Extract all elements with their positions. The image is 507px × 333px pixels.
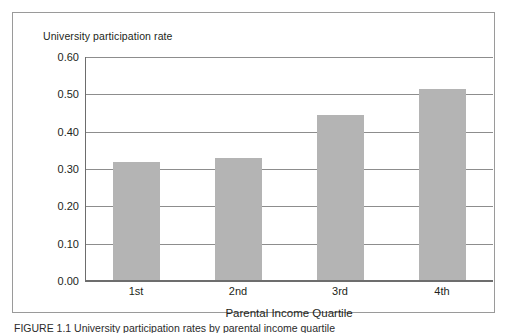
- figure-frame: University participation rate 0.600.500.…: [12, 12, 495, 313]
- figure-caption: FIGURE 1.1 University participation rate…: [14, 322, 500, 333]
- x-axis-line: [85, 280, 493, 281]
- y-axis-tick-labels: 0.600.500.400.300.200.100.00: [29, 57, 79, 281]
- bar: [113, 162, 160, 281]
- bar: [419, 89, 466, 281]
- y-axis-tick-label: 0.10: [35, 238, 79, 250]
- x-axis-tick-labels: 1st2nd3rd4th: [85, 285, 493, 303]
- x-axis-title: Parental Income Quartile: [85, 307, 493, 319]
- x-axis-tick-label: 1st: [129, 285, 144, 297]
- y-axis-tick-label: 0.40: [35, 126, 79, 138]
- y-axis-tick-label: 0.00: [35, 275, 79, 287]
- y-axis-tick-label: 0.50: [35, 88, 79, 100]
- gridline: [85, 57, 493, 58]
- x-axis-tick-label: 2nd: [229, 285, 247, 297]
- y-axis-tick-label: 0.20: [35, 200, 79, 212]
- y-axis-tick-label: 0.60: [35, 51, 79, 63]
- figure-page: University participation rate 0.600.500.…: [0, 0, 507, 333]
- plot-area: [85, 57, 493, 281]
- chart-title: University participation rate: [43, 30, 173, 42]
- y-axis-line: [85, 57, 86, 281]
- x-axis-tick-label: 4th: [434, 285, 449, 297]
- gridline: [85, 281, 493, 282]
- bar: [317, 115, 364, 281]
- y-axis-tick-label: 0.30: [35, 163, 79, 175]
- bar: [215, 158, 262, 281]
- x-axis-tick-label: 3rd: [332, 285, 348, 297]
